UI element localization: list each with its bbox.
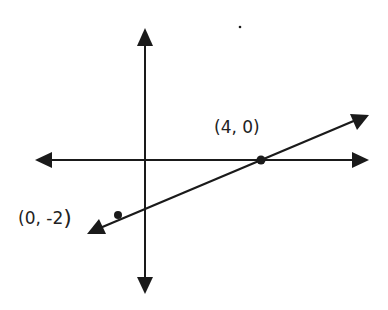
x-axis-right-arrow-icon — [352, 152, 369, 168]
x-axis-left-arrow-icon — [35, 152, 52, 168]
point-y-intercept-marker — [114, 211, 122, 219]
point-label-y-intercept: (0, -2) — [18, 204, 72, 229]
x-axis — [35, 152, 369, 168]
point-label-x-intercept: (4, 0) — [214, 117, 260, 137]
stray-dot — [239, 26, 242, 29]
point-label-y-intercept-text: (0, -2 — [18, 208, 63, 228]
coordinate-plane — [0, 0, 388, 310]
point-x-intercept — [257, 156, 266, 165]
point-label-y-intercept-close-paren: ) — [63, 205, 72, 230]
y-axis-down-arrow-icon — [137, 277, 153, 294]
y-axis-up-arrow-icon — [137, 28, 153, 46]
